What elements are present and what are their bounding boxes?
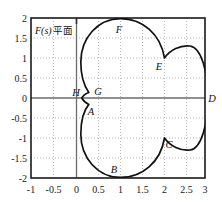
y-tick--1.5: -1.5 — [11, 153, 27, 164]
figure-container: F(s)平面 A B C D E F G H 2 1.5 1 0.5 0 -0.… — [0, 0, 222, 202]
y-tick-0.5: 0.5 — [15, 73, 28, 84]
y-tick-1.5: 1.5 — [15, 33, 28, 44]
y-tick-2: 2 — [22, 13, 27, 24]
x-tick-3: 3 — [203, 184, 208, 195]
x-tick--1: -1 — [27, 184, 35, 195]
x-tick-0: 0 — [74, 184, 79, 195]
x-tick-2: 2 — [162, 184, 167, 195]
label-point-E: E — [155, 61, 163, 72]
x-tick--0.5: -0.5 — [46, 184, 62, 195]
fs-plane-plot: F(s)平面 A B C D E F G H 2 1.5 1 0.5 0 -0.… — [0, 0, 222, 202]
label-point-C: C — [165, 139, 173, 150]
x-tick-1.5: 1.5 — [136, 184, 149, 195]
y-tick-0: 0 — [22, 93, 27, 104]
y-tick-1: 1 — [22, 53, 27, 64]
plane-label-cjk: 平面 — [53, 25, 73, 36]
x-tick-0.5: 0.5 — [92, 184, 105, 195]
label-point-D: D — [207, 93, 216, 104]
label-point-H: H — [71, 87, 81, 98]
y-tick--0.5: -0.5 — [11, 113, 27, 124]
plane-label: F(s)平面 — [34, 25, 73, 37]
label-point-B: B — [111, 164, 118, 175]
y-tick--2: -2 — [19, 173, 27, 184]
x-tick-1: 1 — [118, 184, 123, 195]
label-point-A: A — [87, 106, 95, 117]
plane-label-latin: F(s) — [34, 25, 52, 37]
y-tick--1: -1 — [19, 133, 27, 144]
x-tick-2.5: 2.5 — [180, 184, 193, 195]
label-point-F: F — [115, 24, 123, 35]
label-point-G: G — [94, 86, 102, 97]
x-axis-tick-labels: -1 -0.5 0 0.5 1 1.5 2 2.5 3 — [27, 184, 208, 195]
